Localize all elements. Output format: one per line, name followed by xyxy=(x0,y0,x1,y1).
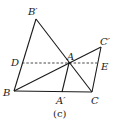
label-c: C xyxy=(91,95,99,106)
point-a-dot xyxy=(68,62,70,64)
segment-cprime-c xyxy=(92,47,101,92)
segment-b-c xyxy=(14,91,92,92)
label-a: A xyxy=(66,51,74,62)
segment-bprime-b xyxy=(14,19,36,91)
segment-b-cprime xyxy=(14,47,101,91)
geometry-figure: B′ B C C′ A A′ D E (c) xyxy=(0,0,114,126)
label-d: D xyxy=(10,57,19,68)
label-c-prime: C′ xyxy=(100,36,111,47)
label-e: E xyxy=(100,61,109,72)
label-b-prime: B′ xyxy=(27,6,38,17)
label-a-prime: A′ xyxy=(55,95,66,106)
label-b: B xyxy=(2,87,10,98)
figure-caption: (c) xyxy=(53,108,67,119)
segment-a-aprime xyxy=(62,63,69,92)
